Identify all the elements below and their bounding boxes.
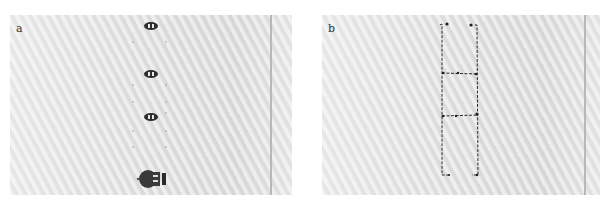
small-robot — [144, 70, 158, 78]
small-robot — [144, 22, 158, 30]
ladder-drawing — [322, 15, 600, 195]
small-robot — [144, 113, 158, 121]
ink-blobs — [442, 22, 479, 176]
robot-track-drawing — [10, 15, 292, 195]
dotted-guide — [132, 41, 167, 148]
panel-b-photo: b — [322, 15, 600, 195]
ladder-outline — [440, 24, 478, 175]
large-robot — [137, 170, 166, 188]
panel-a-photo: a — [10, 15, 292, 195]
